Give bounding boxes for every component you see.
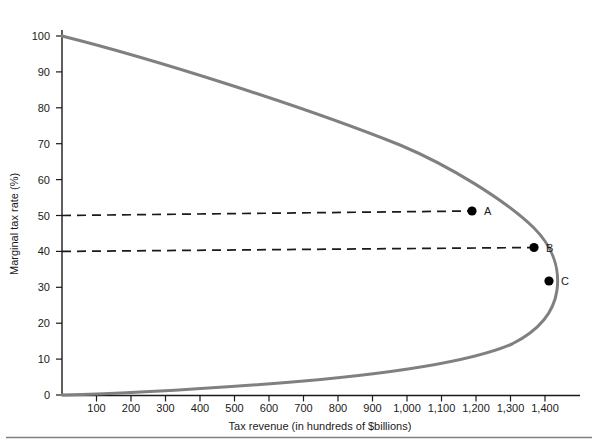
x-tick-label-300: 300	[156, 402, 174, 414]
data-point-b-label: B	[546, 242, 553, 254]
x-tick-label-900: 900	[363, 402, 381, 414]
y-tick-label-60: 60	[38, 174, 50, 186]
x-tick-label-400: 400	[191, 402, 209, 414]
y-tick-label-100: 100	[32, 30, 50, 42]
chart-canvas: 0 10 20 30 40 50 60 70 80 90 100	[0, 0, 598, 445]
y-tick-label-90: 90	[38, 66, 50, 78]
y-tick-label-70: 70	[38, 138, 50, 150]
x-tick-label-600: 600	[260, 402, 278, 414]
data-point-c-marker	[544, 276, 553, 285]
y-tick-label-40: 40	[38, 245, 50, 257]
x-tick-label-700: 700	[294, 402, 312, 414]
y-tick-label-10: 10	[38, 353, 50, 365]
y-axis-title: Marginal tax rate (%)	[8, 173, 20, 275]
x-tick-label-1300: 1,300	[497, 402, 525, 414]
x-tick-label-1100: 1,100	[428, 402, 456, 414]
data-point-a-label: A	[484, 205, 492, 217]
data-point-b-marker	[529, 243, 538, 252]
x-axis-title: Tax revenue (in hundreds of $billions)	[229, 420, 412, 432]
x-tick-label-1200: 1,200	[462, 402, 490, 414]
y-tick-label-0: 0	[44, 389, 50, 401]
y-tick-label-50: 50	[38, 210, 50, 222]
y-tick-label-80: 80	[38, 102, 50, 114]
data-point-c-label: C	[561, 275, 569, 287]
x-tick-label-100: 100	[87, 402, 105, 414]
x-tick-label-1000: 1,000	[393, 402, 421, 414]
y-tick-label-30: 30	[38, 281, 50, 293]
x-tick-label-500: 500	[225, 402, 243, 414]
y-tick-label-20: 20	[38, 317, 50, 329]
x-tick-label-200: 200	[122, 402, 140, 414]
plot-background	[0, 0, 598, 445]
x-tick-label-1400: 1,400	[531, 402, 559, 414]
x-tick-label-800: 800	[329, 402, 347, 414]
laffer-curve-figure: 0 10 20 30 40 50 60 70 80 90 100	[0, 0, 598, 445]
data-point-a-marker	[467, 206, 476, 215]
